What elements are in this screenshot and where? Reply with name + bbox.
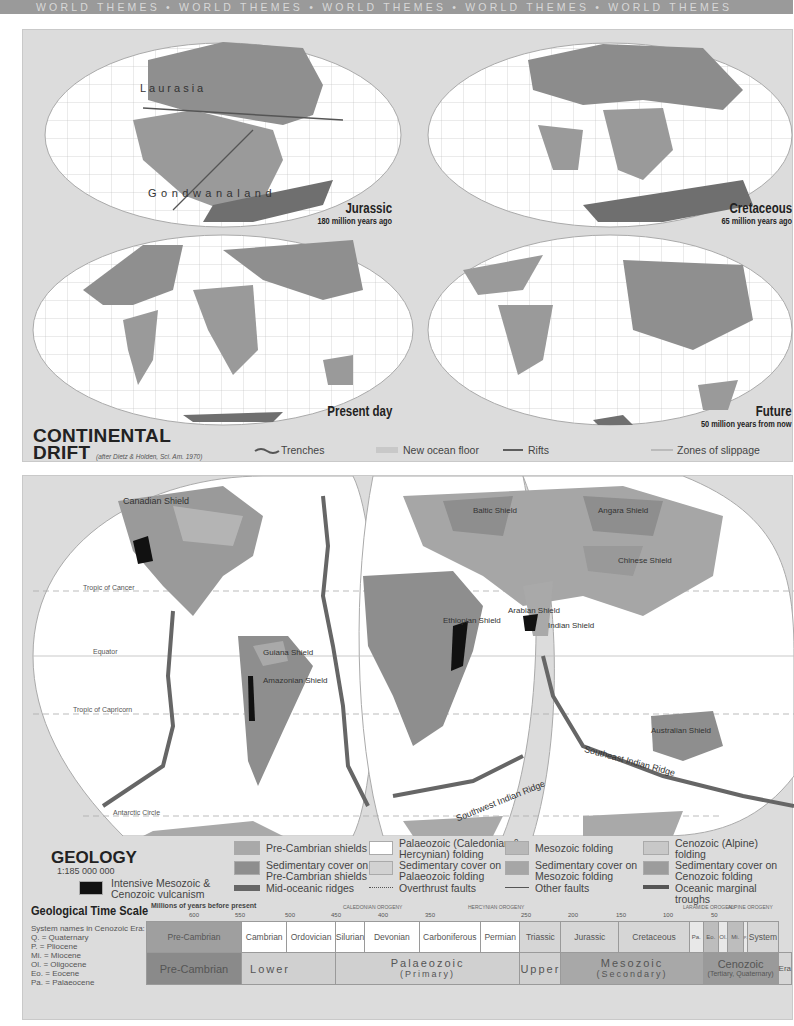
- legend-sed-cenozoic: Sedimentary cover on Cenozoic folding: [675, 860, 790, 882]
- cretaceous-caption: Cretaceous 65 million years ago: [706, 200, 792, 226]
- canadian-shield-label: Canadian Shield: [123, 496, 189, 506]
- legend-sed-palaeozoic: Sedimentary cover on Palaeozoic folding: [399, 860, 509, 882]
- alpine-orogeny: ALPINE OROGENY: [728, 904, 773, 910]
- systems-row: Pre-Cambrian Cambrian Ordovician Siluria…: [147, 922, 792, 953]
- troughs-swatch: [643, 885, 669, 889]
- geology-scale: 1:185 000 000: [57, 866, 115, 876]
- legend-sed-mesozoic: Sedimentary cover on Mesozoic folding: [535, 860, 645, 882]
- arabian-shield-label: Arabian Shield: [508, 606, 560, 615]
- angara-shield-label: Angara Shield: [598, 506, 648, 515]
- legend-other-faults: Other faults: [535, 883, 589, 894]
- geology-title: GEOLOGY: [51, 848, 137, 868]
- legend-new-ocean-floor: New ocean floor: [403, 444, 479, 456]
- sed-precambrian-swatch: [234, 861, 260, 875]
- hercynian-orogeny: HERCYNIAN OROGENY: [468, 904, 524, 910]
- present-day-map: [33, 235, 413, 425]
- indian-shield-label: Indian Shield: [548, 621, 594, 630]
- precambrian-swatch: [234, 841, 260, 855]
- australian-shield-label: Australian Shield: [651, 726, 711, 735]
- mesozoic-swatch: [505, 841, 529, 855]
- chinese-shield-label: Chinese Shield: [618, 556, 672, 565]
- geology-panel: Canadian Shield Guiana Shield Amazonian …: [22, 475, 793, 1020]
- equator-label: Equator: [93, 648, 118, 655]
- vulcanism-swatch: [79, 881, 103, 895]
- legend-sed-precambrian: Sedimentary cover on Pre-Cambrian shield…: [266, 860, 381, 882]
- header-band: WORLD THEMES • WORLD THEMES • WORLD THEM…: [0, 0, 793, 14]
- eras-row: Pre-Cambrian Lower Palaeozoic(Primary) U…: [147, 953, 792, 985]
- tropic-cancer-label: Tropic of Cancer: [83, 584, 134, 591]
- drift-maps-graphic: [23, 30, 794, 463]
- guiana-shield-label: Guiana Shield: [263, 648, 313, 657]
- sed-mesozoic-swatch: [505, 861, 529, 875]
- time-axis-label: Millions of years before present: [151, 902, 256, 909]
- jurassic-caption: Jurassic 180 million years ago: [301, 200, 392, 226]
- legend-troughs: Oceanic marginal troughs: [675, 883, 792, 905]
- drift-title: CONTINENTAL DRIFT (after Dietz & Holden,…: [33, 427, 202, 465]
- other-faults-swatch: [505, 887, 529, 888]
- continental-drift-panel: Laurasia Gondwanaland Jurassic 180 milli…: [22, 29, 793, 462]
- overthrust-swatch: [369, 887, 393, 888]
- sed-palaeozoic-swatch: [369, 861, 393, 875]
- palaeozoic-swatch: [369, 841, 393, 855]
- present-caption: Present day: [313, 403, 392, 419]
- baltic-shield-label: Baltic Shield: [473, 506, 517, 515]
- legend-vulcanism: Intensive Mesozoic & Cenozoic vulcanism: [111, 878, 251, 900]
- gondwanaland-label: Gondwanaland: [148, 187, 276, 199]
- geology-map-graphic: [23, 476, 794, 836]
- drift-citation: (after Dietz & Holden, Sci. Am. 1970): [96, 453, 202, 460]
- ethiopian-shield-label: Ethiopian Shield: [443, 616, 501, 625]
- amazonian-shield-label: Amazonian Shield: [263, 676, 327, 685]
- tropic-capricorn-label: Tropic of Capricorn: [73, 706, 132, 713]
- legend-ridges: Mid-oceanic ridges: [266, 883, 354, 894]
- legend-slippage: Zones of slippage: [677, 444, 760, 456]
- legend-trenches: Trenches: [281, 444, 324, 456]
- legend-cenozoic: Cenozoic (Alpine) folding: [675, 838, 785, 860]
- future-caption: Future 50 million years from now: [681, 403, 792, 429]
- legend-mesozoic: Mesozoic folding: [535, 843, 613, 854]
- legend-rifts: Rifts: [528, 444, 549, 456]
- legend-overthrust: Overthrust faults: [399, 883, 476, 894]
- cenozoic-swatch: [643, 841, 669, 855]
- antarctic-circle-label: Antarctic Circle: [113, 809, 160, 816]
- caledonian-orogeny: CALEDONIAN OROGENY: [343, 904, 402, 910]
- time-scale-table: Pre-Cambrian Cambrian Ordovician Siluria…: [146, 921, 792, 985]
- cenozoic-notes: System names in Cenozoic Era: Q. = Quate…: [31, 924, 145, 987]
- laurasia-label: Laurasia: [140, 82, 206, 94]
- ridge-swatch: [234, 885, 260, 891]
- future-map: [428, 235, 792, 425]
- sed-cenozoic-swatch: [643, 861, 669, 875]
